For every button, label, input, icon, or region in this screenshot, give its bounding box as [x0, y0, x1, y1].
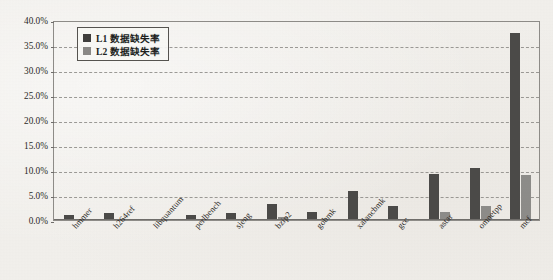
legend-label-l1: L1 数据缺失率: [96, 31, 160, 45]
bar-l1: [429, 174, 439, 221]
bar-group: [470, 22, 491, 220]
y-axis-tick-label: 20.0%: [0, 116, 48, 126]
y-axis-tick-mark: [51, 222, 54, 223]
bar-group: [348, 22, 369, 220]
x-axis-line: [54, 219, 539, 220]
y-axis-tick-label: 0.0%: [0, 216, 48, 226]
bar-group: [186, 22, 207, 220]
legend-item-l1: L1 数据缺失率: [83, 31, 160, 44]
bar-l2: [481, 206, 491, 220]
bar-l1: [267, 204, 277, 220]
bar-l2: [521, 175, 531, 220]
bar-group: [429, 22, 450, 220]
bar-l1: [470, 168, 480, 220]
legend-label-l2: L2 数据缺失率: [96, 44, 160, 58]
bar-l1: [388, 206, 398, 221]
legend-swatch-l1-icon: [83, 34, 91, 42]
y-axis-tick-label: 30.0%: [0, 66, 48, 76]
bar-group: [267, 22, 288, 220]
y-axis-tick-label: 5.0%: [0, 191, 48, 201]
chart-legend: L1 数据缺失率 L2 数据缺失率: [77, 27, 169, 61]
legend-swatch-l2-icon: [83, 47, 91, 55]
bar-group: [307, 22, 328, 220]
y-axis-tick-label: 15.0%: [0, 141, 48, 151]
y-axis-tick-label: 35.0%: [0, 41, 48, 51]
legend-item-l2: L2 数据缺失率: [83, 44, 160, 57]
bar-l1: [510, 33, 520, 221]
chart-page: 40.0%35.0%30.0%25.0%20.0%15.0%10.0%5.0%0…: [0, 0, 553, 280]
bar-l1: [348, 191, 358, 220]
bar-group: [226, 22, 247, 220]
y-axis-tick-label: 25.0%: [0, 91, 48, 101]
bar-group: [388, 22, 409, 220]
y-axis-tick-label: 40.0%: [0, 16, 48, 26]
bar-group: [510, 22, 531, 220]
y-axis-tick-label: 10.0%: [0, 166, 48, 176]
